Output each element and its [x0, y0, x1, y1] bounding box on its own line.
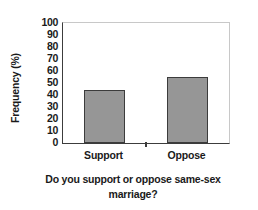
y-axis-title: Frequency (%)	[8, 28, 22, 148]
bar-support	[84, 90, 125, 143]
y-axis-tick-90: 90	[30, 29, 58, 40]
x-axis-title: Do you support or oppose same-sex marria…	[24, 172, 242, 202]
x-axis-title-line-2: marriage?	[24, 187, 242, 202]
y-axis-tick-70: 70	[30, 53, 58, 64]
y-axis-tick-60: 60	[30, 65, 58, 76]
y-axis-tick-30: 30	[30, 101, 58, 112]
y-axis-tick-40: 40	[30, 89, 58, 100]
x-axis-tick-label-oppose: Oppose	[137, 149, 237, 161]
x-axis-title-line-1: Do you support or oppose same-sex	[24, 172, 242, 187]
bar-oppose	[167, 77, 208, 143]
y-axis-tick-20: 20	[30, 113, 58, 124]
y-axis-tick-50: 50	[30, 77, 58, 88]
y-axis-tick-100: 100	[30, 17, 58, 28]
plot-area	[62, 22, 230, 144]
y-axis-tick-labels: 1009080706050403020100	[30, 16, 58, 148]
y-axis-tick-0: 0	[30, 137, 58, 148]
x-axis-tickmark-1	[145, 142, 147, 147]
y-axis-tick-80: 80	[30, 41, 58, 52]
y-axis-tick-10: 10	[30, 125, 58, 136]
bar-chart-figure: Frequency (%) 1009080706050403020100 Sup…	[0, 0, 258, 210]
